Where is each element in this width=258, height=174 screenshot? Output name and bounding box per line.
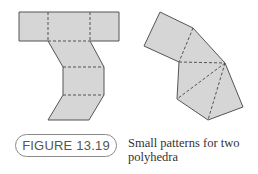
figure-caption: Small patterns for two polyhedra [128,136,256,164]
left-net-outline [19,12,119,120]
figure-label-badge: FIGURE 13.19 [15,134,117,157]
left-net [19,12,119,120]
right-net-outline [144,12,243,120]
right-net [144,12,243,120]
